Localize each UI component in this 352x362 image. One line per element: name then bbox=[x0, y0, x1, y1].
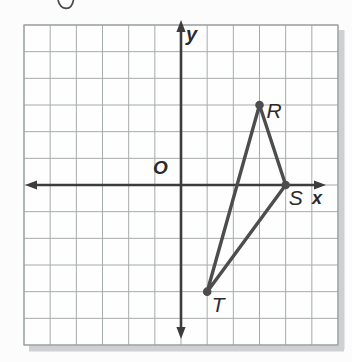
vertex-label-S: S bbox=[289, 186, 303, 209]
vertex-dot-T bbox=[203, 287, 212, 296]
vertex-label-R: R bbox=[267, 99, 282, 122]
vertex-label-T: T bbox=[212, 293, 227, 316]
shadow-bottom bbox=[29, 346, 344, 352]
y-axis-label: y bbox=[185, 23, 198, 45]
shadow-right bbox=[339, 30, 345, 349]
x-axis-label: x bbox=[311, 188, 323, 208]
coordinate-plane-figure: y x O RST bbox=[0, 0, 352, 362]
origin-label: O bbox=[153, 157, 168, 178]
figure-canvas: y x O RST bbox=[0, 0, 352, 362]
clipped-text-fragment bbox=[58, 0, 74, 8]
vertex-dot-R bbox=[255, 101, 264, 110]
